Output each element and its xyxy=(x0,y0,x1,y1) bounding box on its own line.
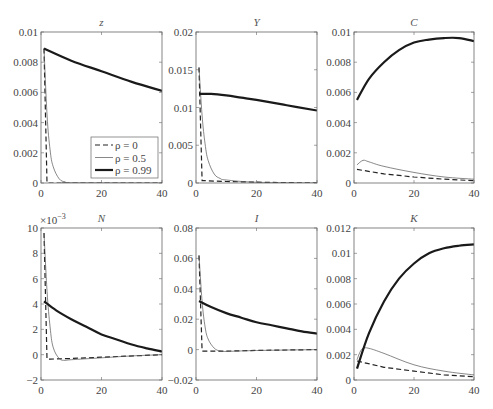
legend-label: ρ = 0 xyxy=(115,139,138,151)
y-tick-label: 0.006 xyxy=(326,298,351,310)
y-tick-label: 0.008 xyxy=(326,273,351,285)
panel-title: K xyxy=(409,212,418,224)
x-tick-label: 20 xyxy=(251,187,263,199)
y-tick-label: 0.02 xyxy=(174,26,193,38)
y-tick-label: 4 xyxy=(33,298,39,310)
x-tick-label: 20 xyxy=(251,384,263,396)
x-tick-label: 40 xyxy=(469,187,481,199)
y-tick-label: 0.006 xyxy=(13,86,38,98)
plot-frame xyxy=(354,32,474,183)
series-line-1 xyxy=(199,255,317,351)
y-tick-label: 0.06 xyxy=(174,252,194,264)
series-line-0 xyxy=(357,361,474,377)
x-tick-label: 0 xyxy=(193,384,199,396)
y-tick-label: −2 xyxy=(26,374,38,386)
y-tick-label: 0.004 xyxy=(326,117,351,129)
x-tick-label: 20 xyxy=(96,187,108,199)
y-tick-label: 0.015 xyxy=(168,64,193,76)
x-tick-label: 0 xyxy=(38,384,44,396)
x-tick-label: 0 xyxy=(351,187,357,199)
x-tick-label: 40 xyxy=(312,187,324,199)
y-tick-label: 0.005 xyxy=(168,139,193,151)
series-line-1 xyxy=(357,160,474,179)
y-tick-label: 6 xyxy=(33,273,39,285)
x-tick-label: 40 xyxy=(469,384,481,396)
y-tick-label: 0 xyxy=(33,349,39,361)
x-tick-label: 0 xyxy=(193,187,199,199)
series-line-0 xyxy=(44,233,162,359)
legend: ρ = 0ρ = 0.5ρ = 0.99 xyxy=(91,137,158,178)
y-tick-label: 0.002 xyxy=(326,147,351,159)
y-tick-label: −0.02 xyxy=(168,374,193,386)
legend-label: ρ = 0.5 xyxy=(115,152,146,164)
series-line-0 xyxy=(199,255,317,351)
y-tick-label: 0.004 xyxy=(13,117,38,129)
panel-title: C xyxy=(410,16,418,28)
series-line-2 xyxy=(199,301,317,334)
subplot-c: 00.0020.0040.0060.0080.0102040C xyxy=(326,16,480,199)
plot-frame xyxy=(354,228,474,380)
y-tick-label: 0.004 xyxy=(326,323,351,335)
y-tick-label: 0.01 xyxy=(332,247,351,259)
y-tick-label: 2 xyxy=(33,323,39,335)
plot-frame xyxy=(196,228,317,380)
x-tick-label: 0 xyxy=(38,187,44,199)
y-tick-label: 0.008 xyxy=(13,56,38,68)
panel-title: N xyxy=(97,212,106,224)
subplot-n: −2024681002040N×10−3 xyxy=(26,212,168,396)
x-tick-label: 0 xyxy=(351,384,357,396)
x-tick-label: 40 xyxy=(312,384,324,396)
x-tick-label: 20 xyxy=(409,187,421,199)
y-tick-label: 0.04 xyxy=(174,283,194,295)
y-tick-label: 0.006 xyxy=(326,86,351,98)
subplot-i: −0.0200.020.040.060.0802040I xyxy=(168,212,323,396)
y-tick-label: 0.012 xyxy=(326,222,351,234)
series-line-2 xyxy=(44,301,162,351)
panel-title: z xyxy=(98,16,104,28)
y-tick-label: 8 xyxy=(33,247,39,259)
x-tick-label: 20 xyxy=(409,384,421,396)
y-tick-label: 0 xyxy=(188,344,194,356)
series-line-2 xyxy=(199,94,317,111)
series-line-0 xyxy=(357,169,474,180)
subplot-y: 00.0050.010.0150.0202040Y xyxy=(168,16,323,199)
y-tick-label: 0.002 xyxy=(13,147,38,159)
y-tick-label: 0.02 xyxy=(174,313,193,325)
y-tick-label: 0.01 xyxy=(19,26,38,38)
series-line-0 xyxy=(199,68,317,184)
y-exponent-label: ×10−3 xyxy=(40,212,66,226)
series-line-1 xyxy=(199,67,317,183)
subplot-k: 00.0020.0040.0060.0080.010.01202040K xyxy=(326,212,480,396)
subplot-z: 00.0020.0040.0060.0080.0102040zρ = 0ρ = … xyxy=(13,16,168,199)
y-tick-label: 0.01 xyxy=(332,26,351,38)
x-tick-label: 20 xyxy=(96,384,108,396)
series-line-2 xyxy=(44,49,162,91)
y-tick-label: 0.08 xyxy=(174,222,194,234)
series-line-1 xyxy=(44,233,162,360)
series-line-2 xyxy=(357,38,474,100)
y-tick-label: 0.01 xyxy=(174,102,193,114)
x-tick-label: 40 xyxy=(157,384,169,396)
panel-title: I xyxy=(254,212,260,224)
panel-title: Y xyxy=(253,16,261,28)
y-tick-label: 0.008 xyxy=(326,56,351,68)
figure-canvas: 00.0020.0040.0060.0080.0102040zρ = 0ρ = … xyxy=(0,0,493,409)
y-tick-label: 10 xyxy=(27,222,39,234)
legend-label: ρ = 0.99 xyxy=(115,164,152,176)
y-tick-label: 0.002 xyxy=(326,349,351,361)
x-tick-label: 40 xyxy=(157,187,169,199)
